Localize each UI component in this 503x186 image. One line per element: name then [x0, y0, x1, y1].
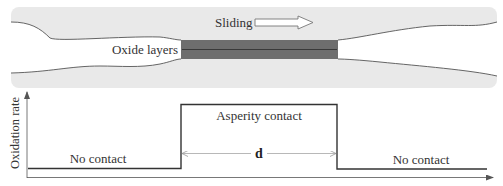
- contact-schematic: Sliding Oxide layers: [11, 7, 497, 88]
- asperity-contact-label: Asperity contact: [216, 108, 302, 123]
- dimension-d-label: d: [255, 146, 263, 161]
- y-axis-label: Oxidation rate: [8, 97, 22, 169]
- oxidation-diagram: Sliding Oxide layers Oxidation rate Aspe…: [0, 0, 503, 186]
- no-contact-left-label: No contact: [70, 151, 127, 166]
- oxide-layers-label: Oxide layers: [112, 42, 178, 57]
- no-contact-right-label: No contact: [393, 152, 450, 167]
- sliding-label: Sliding: [215, 15, 253, 30]
- oxidation-rate-plot: Oxidation rate Asperity contact No conta…: [8, 92, 493, 178]
